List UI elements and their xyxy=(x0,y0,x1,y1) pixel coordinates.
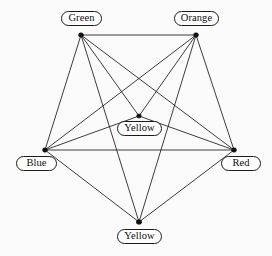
node-label-yellow2[interactable]: Yellow xyxy=(117,229,162,244)
graph-node-dot-yellow2[interactable] xyxy=(136,220,141,225)
node-label-orange[interactable]: Orange xyxy=(174,11,219,26)
graph-node-dot-orange[interactable] xyxy=(194,33,199,37)
graph-node-dot-blue[interactable] xyxy=(43,148,48,152)
graph-edge xyxy=(81,35,139,116)
graph-node-dot-red[interactable] xyxy=(232,148,237,152)
graph-edge xyxy=(139,35,196,116)
graph-edge xyxy=(45,150,139,222)
graph-diagram: GreenOrangeYellowBlueRedYellow xyxy=(0,0,272,256)
node-label-yellow1[interactable]: Yellow xyxy=(117,121,162,136)
node-label-blue[interactable]: Blue xyxy=(16,156,57,171)
graph-edge xyxy=(196,35,234,150)
graph-edge xyxy=(45,35,81,150)
node-label-green[interactable]: Green xyxy=(61,11,102,26)
graph-node-dot-yellow1[interactable] xyxy=(137,114,142,118)
graph-node-dot-green[interactable] xyxy=(79,33,84,37)
graph-edge xyxy=(139,150,234,222)
node-label-red[interactable]: Red xyxy=(221,156,261,171)
